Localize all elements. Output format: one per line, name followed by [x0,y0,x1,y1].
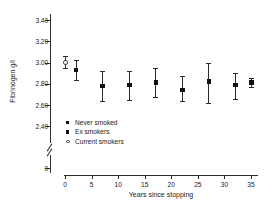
y-tick-label: 3.20 [24,38,48,45]
error-bar-cap [63,68,68,69]
error-bar-cap [63,56,68,57]
legend-label: Never smoked [75,118,118,127]
marker-filled-square [74,68,79,73]
error-bar-cap [233,99,238,100]
x-tick [118,175,119,179]
x-tick-label: 30 [216,181,232,188]
x-tick [251,175,252,179]
y-tick-label: 2.80 [24,80,48,87]
x-tick-label: 0 [57,181,73,188]
error-bar-cap [74,60,79,61]
legend-item: Never smoked [66,118,124,127]
y-axis-break-icon [44,140,58,158]
error-bar-cap [233,73,238,74]
x-tick [171,175,172,179]
x-tick [145,175,146,179]
error-bar-cap [180,101,185,102]
error-bar-cap [180,76,185,77]
chart-legend: Never smokedEx smokersCurrent smokers [66,118,124,146]
filled-square-icon [66,121,75,124]
x-axis-title: Years since stopping [64,191,258,198]
y-tick-label: 2.40 [24,123,48,130]
y-tick-label-zero: 0 [24,165,48,172]
marker-filled-square [180,88,185,93]
marker-filled-square [127,83,132,88]
error-bar-cap [206,103,211,104]
legend-item: Ex smokers [66,127,124,136]
x-tick [92,175,93,179]
error-bar-cap [153,68,158,69]
legend-label: Current smokers [75,137,124,146]
error-bar-cap [127,100,132,101]
x-tick-label: 35 [243,181,259,188]
x-tick-label: 25 [190,181,206,188]
marker-filled-square [233,83,238,88]
marker-filled-square [207,79,212,84]
x-tick-label: 15 [137,181,153,188]
legend-label: Ex smokers [75,127,109,136]
error-bar-cap [100,101,105,102]
error-bar-cap [206,63,211,64]
error-bar-cap [100,71,105,72]
error-bar-cap [249,78,254,79]
y-tick-label: 3.00 [24,59,48,66]
error-bar-cap [153,97,158,98]
legend-item: Current smokers [66,137,124,146]
error-bar-cap [249,87,254,88]
error-bar-cap [74,80,79,81]
marker-filled-square [249,80,254,85]
y-tick-label: 3.40 [24,17,48,24]
x-tick [198,175,199,179]
open-circle-icon [66,140,75,144]
x-axis-line [64,175,258,176]
x-tick [65,175,66,179]
x-tick-label: 5 [84,181,100,188]
error-bar-cap [127,71,132,72]
y-axis-title: Fibrinogen g/l [9,34,16,130]
x-tick-label: 10 [110,181,126,188]
filled-square-icon [66,130,75,133]
x-tick-label: 20 [163,181,179,188]
marker-filled-square [100,84,105,89]
x-tick [224,175,225,179]
y-tick-label: 2.60 [24,102,48,109]
marker-filled-square [154,80,159,85]
fibrinogen-scatter-chart: 3.403.203.002.802.602.400 05101520253035… [0,0,272,210]
marker-open-circle [63,60,68,65]
